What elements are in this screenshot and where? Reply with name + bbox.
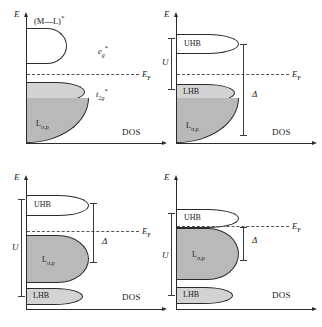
dos-axis-c [26, 309, 163, 310]
lhb-label-b: LHB [183, 88, 199, 96]
ligand-p-label-d: Lσ,p [192, 251, 205, 261]
ligand-p-band-d [177, 228, 239, 280]
u-bracket-cap-bottom [18, 296, 25, 297]
ligand-p-sub: σ,p [41, 124, 49, 130]
panel-a: E (M—L)* eg* EF t2g* Lσ,p DOS [18, 12, 168, 147]
complex-label-star: * [61, 14, 65, 22]
t2g-star-sup: * [104, 87, 107, 94]
fermi-line-a [27, 74, 139, 75]
fermi-label-d: EF [292, 222, 301, 233]
ligand-p-sub: σ,p [191, 126, 199, 132]
uhb-label-b: UHB [184, 40, 201, 48]
dos-axis-label-d: DOS [272, 291, 291, 300]
u-bracket-b [168, 38, 176, 90]
lhb-label-c: LHB [33, 292, 49, 300]
dos-axis-label-a: DOS [122, 128, 141, 137]
complex-label-a: (M—L)* [34, 15, 64, 25]
dos-axis-label-c: DOS [122, 293, 141, 302]
energy-axis-label-d: E [164, 173, 170, 182]
delta-bracket-d [240, 227, 248, 261]
t2g-star-label-a: t2g* [96, 88, 108, 101]
energy-axis-label-a: E [14, 10, 20, 19]
ligand-p-sub: σ,p [197, 255, 205, 261]
ligand-p-label-b: Lσ,p [186, 122, 199, 132]
u-bracket-stem [171, 38, 172, 90]
ligand-p-label-a: Lσ,p [36, 120, 49, 130]
dos-axis-arrow-b [312, 141, 317, 145]
u-bracket-stem [171, 213, 172, 296]
delta-bracket-stem [93, 203, 94, 263]
panel-b: E UHB EF LHB Lσ,p U Δ DOS [168, 12, 318, 147]
t2g-star-sub: 2g [98, 95, 104, 101]
u-bracket-cap-bottom [168, 295, 175, 296]
lhb-label-d: LHB [183, 291, 199, 299]
dos-axis-b [176, 143, 313, 144]
energy-axis-label-b: E [164, 10, 170, 19]
u-bracket-c [18, 199, 26, 297]
fermi-sub: F [297, 74, 301, 81]
eg-star-sub: g [102, 52, 105, 58]
fermi-line-b [177, 74, 289, 75]
fermi-sub: F [147, 74, 151, 81]
fermi-line-c [27, 231, 139, 232]
delta-bracket-stem [243, 44, 244, 136]
eg-star-label-a: eg* [98, 45, 108, 58]
dos-band-diagram-figure: E (M—L)* eg* EF t2g* Lσ,p DOS E [0, 0, 322, 327]
dos-axis-a [26, 143, 163, 144]
u-bracket-label-c: U [12, 243, 19, 252]
fermi-label-c: EF [142, 227, 151, 238]
delta-bracket-label-b: Δ [252, 90, 257, 99]
u-bracket-stem [21, 199, 22, 297]
u-bracket-d [168, 213, 176, 296]
dos-axis-label-b: DOS [272, 128, 291, 137]
u-bracket-label-d: U [162, 251, 169, 260]
delta-bracket-c [90, 203, 98, 263]
delta-bracket-cap-bottom [240, 260, 247, 261]
delta-bracket-stem [243, 227, 244, 261]
delta-bracket-cap-bottom [90, 262, 97, 263]
fermi-label-a: EF [142, 70, 151, 81]
u-bracket-label-b: U [162, 58, 169, 67]
ligand-p-sub: σ,p [47, 260, 55, 266]
fermi-sub: F [147, 231, 151, 238]
ligand-p-label-c: Lσ,p [42, 256, 55, 266]
delta-bracket-label-c: Δ [102, 237, 107, 246]
fermi-sub: F [297, 226, 301, 233]
uhb-label-d: UHB [184, 214, 201, 222]
u-bracket-cap-bottom [168, 89, 175, 90]
eg-star-band-a [27, 28, 67, 64]
panel-d: E UHB EF Lσ,p LHB U Δ DOS [168, 175, 318, 315]
complex-label-text: (M—L) [34, 16, 61, 26]
delta-bracket-label-d: Δ [252, 236, 257, 245]
fermi-line-d [177, 226, 289, 227]
uhb-label-c: UHB [34, 201, 51, 209]
panel-c: E UHB EF Lσ,p LHB U Δ DOS [18, 175, 168, 315]
ligand-p-band-c [27, 235, 89, 283]
delta-bracket-cap-bottom [240, 135, 247, 136]
fermi-label-b: EF [292, 70, 301, 81]
energy-axis-label-c: E [14, 173, 20, 182]
dos-axis-arrow-c [162, 307, 167, 311]
delta-bracket-b [240, 44, 248, 136]
eg-star-sup: * [105, 44, 108, 51]
dos-axis-arrow-d [312, 307, 317, 311]
cropped-caption-artifact [42, 0, 280, 5]
dos-axis-d [176, 309, 313, 310]
dos-axis-arrow-a [162, 141, 167, 145]
